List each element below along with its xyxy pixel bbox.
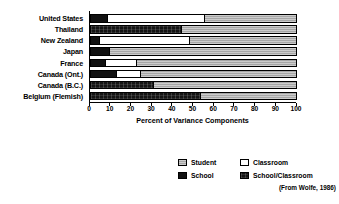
legend-item-school: School [178, 169, 240, 182]
stacked-bar [90, 47, 297, 56]
x-axis-tick-label: 40 [168, 105, 175, 112]
bar-segment-school-classroom [91, 26, 181, 33]
x-axis-tick-label: 90 [272, 105, 279, 112]
bar-segment-student [204, 15, 296, 22]
bar-segment-classroom [107, 15, 203, 22]
x-axis-tick-label: 10 [106, 105, 113, 112]
x-axis-tick-label: 0 [87, 105, 91, 112]
y-axis-label-canada-bc: Canada (B.C.) [0, 80, 86, 91]
bar-row [90, 13, 297, 24]
stacked-bar [90, 25, 297, 34]
bar-row [90, 58, 297, 69]
x-axis-tick-labels: 0102030405060708090100 [89, 105, 296, 114]
stacked-bar [90, 14, 297, 23]
bar-segment-classroom [105, 60, 136, 67]
bar-row [90, 35, 297, 46]
legend-item-school-classroom: School/Classroom [240, 169, 339, 182]
x-axis-tick-label: 60 [210, 105, 217, 112]
y-axis-label-belgium-flemish: Belgium (Flemish) [0, 91, 86, 102]
bar-segment-classroom [99, 37, 189, 44]
legend-item-classroom: Classroom [240, 156, 339, 169]
bar-segment-school [91, 15, 107, 22]
legend-swatch-school-classroom-icon [240, 172, 249, 179]
bar-segment-school-classroom [91, 82, 153, 89]
bar-segment-student [140, 71, 296, 78]
legend-swatch-student-icon [178, 159, 187, 166]
bar-segment-student [109, 48, 296, 55]
legend-swatch-classroom-icon [240, 159, 249, 166]
x-axis-tick-label: 50 [189, 105, 196, 112]
legend-swatch-school-icon [178, 172, 187, 179]
source-citation: (From Wolfe, 1986) [178, 184, 336, 191]
bar-segment-school [91, 71, 116, 78]
legend-label-school: School [191, 172, 214, 179]
stacked-bar [90, 59, 297, 68]
bar-row [90, 80, 297, 91]
bar-row [90, 69, 297, 80]
bar-row [90, 46, 297, 57]
plot-area [89, 11, 297, 104]
x-axis-tick-label: 30 [147, 105, 154, 112]
y-axis-label-canada-ont: Canada (Ont.) [0, 69, 86, 80]
y-axis-label-thailand: Thailand [0, 24, 86, 35]
legend-label-school-classroom: School/Classroom [253, 172, 313, 179]
legend-item-student: Student [178, 156, 240, 169]
bar-row [90, 91, 297, 102]
bar-segment-student [181, 26, 296, 33]
bar-segment-student [200, 93, 296, 100]
x-axis-tick-label: 80 [251, 105, 258, 112]
x-axis-tick-label: 100 [290, 105, 301, 112]
y-axis-label-new-zealand: New Zealand [0, 35, 86, 46]
x-axis-tick-label: 70 [230, 105, 237, 112]
y-axis-category-labels: United States Thailand New Zealand Japan… [0, 13, 86, 102]
bar-segment-classroom [116, 71, 141, 78]
y-axis-label-united-states: United States [0, 13, 86, 24]
chart-legend: Student Classroom School School/Classroo… [178, 156, 339, 182]
stacked-bar [90, 81, 297, 90]
bar-segment-student [136, 60, 296, 67]
bar-row [90, 24, 297, 35]
legend-label-classroom: Classroom [253, 159, 288, 166]
variance-components-bar-chart: United States Thailand New Zealand Japan… [0, 0, 339, 204]
legend-row-top: Student Classroom [178, 156, 339, 169]
bar-segment-school [91, 60, 105, 67]
legend-label-student: Student [191, 159, 216, 166]
legend-row-bottom: School School/Classroom [178, 169, 339, 182]
bar-segment-student [189, 37, 296, 44]
stacked-bar [90, 70, 297, 79]
bar-segment-school-classroom [91, 93, 200, 100]
bar-segment-school [91, 48, 109, 55]
x-axis-tick-label: 20 [127, 105, 134, 112]
stacked-bar [90, 92, 297, 101]
stacked-bar [90, 36, 297, 45]
bar-segment-student [153, 82, 297, 89]
bars-container [90, 13, 297, 102]
x-axis-title: Percent of Variance Components [89, 116, 296, 125]
y-axis-label-japan: Japan [0, 46, 86, 57]
bar-segment-school [91, 37, 99, 44]
y-axis-label-france: France [0, 58, 86, 69]
